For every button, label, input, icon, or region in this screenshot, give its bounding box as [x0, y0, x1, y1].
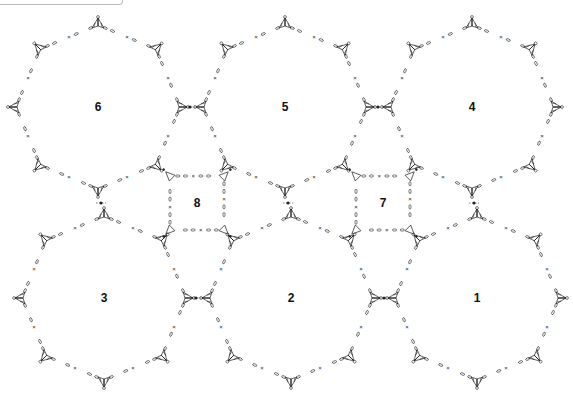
octagon-label-3: 3: [101, 291, 108, 305]
svg-text:×: ×: [446, 365, 450, 371]
svg-text:×: ×: [400, 75, 404, 81]
svg-text:×: ×: [166, 133, 170, 139]
svg-text:×: ×: [73, 365, 77, 371]
svg-text:×: ×: [199, 227, 203, 233]
svg-text:×: ×: [408, 196, 412, 202]
svg-text:×: ×: [125, 174, 129, 180]
join-point: [469, 202, 479, 205]
svg-text:×: ×: [359, 266, 363, 272]
octagon-label-5: 5: [282, 100, 289, 114]
svg-text:×: ×: [540, 133, 544, 139]
svg-text:×: ×: [254, 174, 258, 180]
crochet-diagram: ××××××××××××××××××××××××××××××××××××××××…: [0, 0, 573, 396]
square-label-8: 8: [194, 196, 201, 210]
svg-text:×: ×: [222, 196, 226, 202]
svg-text:×: ×: [499, 174, 503, 180]
svg-text:×: ×: [191, 173, 195, 179]
svg-text:×: ×: [172, 266, 176, 272]
svg-text:×: ×: [377, 173, 381, 179]
svg-text:×: ×: [353, 75, 357, 81]
svg-text:×: ×: [67, 174, 71, 180]
svg-text:×: ×: [353, 133, 357, 139]
svg-text:×: ×: [318, 365, 322, 371]
svg-text:×: ×: [125, 34, 129, 40]
svg-text:×: ×: [131, 225, 135, 231]
svg-text:×: ×: [400, 133, 404, 139]
svg-text:×: ×: [73, 225, 77, 231]
svg-text:×: ×: [441, 34, 445, 40]
join-point: [283, 202, 293, 205]
svg-text:×: ×: [312, 174, 316, 180]
svg-text:×: ×: [312, 34, 316, 40]
svg-text:×: ×: [540, 75, 544, 81]
svg-text:×: ×: [26, 75, 30, 81]
svg-text:×: ×: [260, 365, 264, 371]
svg-text:×: ×: [385, 227, 389, 233]
svg-text:×: ×: [405, 324, 409, 330]
svg-text:×: ×: [67, 34, 71, 40]
svg-text:×: ×: [219, 324, 223, 330]
svg-text:×: ×: [441, 174, 445, 180]
octagon-label-6: 6: [95, 100, 102, 114]
join-point: [96, 202, 106, 205]
svg-text:×: ×: [166, 75, 170, 81]
svg-text:×: ×: [219, 266, 223, 272]
svg-text:×: ×: [32, 266, 36, 272]
svg-text:×: ×: [131, 365, 135, 371]
svg-text:×: ×: [354, 204, 358, 210]
svg-text:×: ×: [545, 324, 549, 330]
svg-text:×: ×: [32, 324, 36, 330]
octagon-label-2: 2: [288, 291, 295, 305]
svg-text:×: ×: [504, 365, 508, 371]
octagon-label-1: 1: [474, 291, 481, 305]
svg-text:×: ×: [359, 324, 363, 330]
svg-text:×: ×: [213, 75, 217, 81]
svg-text:×: ×: [172, 324, 176, 330]
svg-text:×: ×: [545, 266, 549, 272]
svg-text:×: ×: [260, 225, 264, 231]
svg-text:×: ×: [318, 225, 322, 231]
octagon-label-4: 4: [469, 100, 476, 114]
svg-text:×: ×: [213, 133, 217, 139]
svg-text:×: ×: [26, 133, 30, 139]
svg-text:×: ×: [254, 34, 258, 40]
svg-text:×: ×: [504, 225, 508, 231]
svg-text:×: ×: [405, 266, 409, 272]
svg-text:×: ×: [446, 225, 450, 231]
svg-text:×: ×: [168, 204, 172, 210]
square-label-7: 7: [380, 196, 387, 210]
svg-text:×: ×: [499, 34, 503, 40]
